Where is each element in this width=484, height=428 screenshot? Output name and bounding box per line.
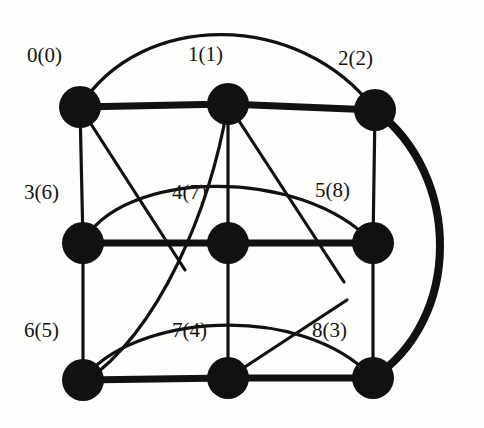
node-label-3: 3(6)	[24, 182, 59, 203]
graph-node-8[interactable]	[352, 357, 394, 399]
graph-node-4[interactable]	[207, 222, 249, 264]
node-label-0: 0(0)	[27, 45, 62, 66]
graph-node-6[interactable]	[62, 359, 104, 401]
node-label-6: 6(5)	[24, 320, 59, 341]
graph-edge-1-2	[228, 104, 375, 110]
graph-node-5[interactable]	[352, 222, 394, 264]
node-label-5: 5(8)	[315, 180, 350, 201]
graph-edge-6-7	[83, 378, 228, 380]
graph-node-7[interactable]	[207, 357, 249, 399]
node-label-7: 7(4)	[172, 320, 207, 341]
graph-canvas	[0, 0, 484, 428]
node-label-2: 2(2)	[338, 48, 373, 69]
graph-node-1[interactable]	[207, 83, 249, 125]
graph-edge-0-1	[80, 104, 228, 107]
node-label-1: 1(1)	[188, 44, 223, 65]
node-label-4: 4(7)	[172, 182, 207, 203]
edges-layer	[80, 35, 440, 382]
graph-figure: 0(0)1(1)2(2)3(6)4(7)5(8)6(5)7(4)8(3)	[0, 0, 484, 428]
graph-node-3[interactable]	[62, 222, 104, 264]
graph-node-0[interactable]	[59, 86, 101, 128]
graph-node-2[interactable]	[354, 89, 396, 131]
node-label-8: 8(3)	[312, 320, 347, 341]
